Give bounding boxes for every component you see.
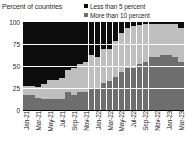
bar-segment-more-than-10 bbox=[166, 55, 172, 110]
bar-mar-22 bbox=[107, 22, 113, 110]
plot-area bbox=[23, 22, 184, 110]
bar-mar-21 bbox=[35, 22, 41, 110]
bar-group bbox=[23, 22, 184, 110]
bar-segment-5-to-10 bbox=[101, 49, 107, 82]
bar-segment-more-than-10 bbox=[160, 55, 166, 110]
bar-segment-less-than-5 bbox=[89, 22, 95, 55]
bar-segment-more-than-10 bbox=[143, 62, 149, 110]
bar-segment-5-to-10 bbox=[154, 24, 160, 57]
bar-segment-less-than-5 bbox=[47, 22, 53, 80]
bar-segment-more-than-10 bbox=[77, 92, 83, 110]
bar-jul-22 bbox=[131, 22, 137, 110]
bar-segment-more-than-10 bbox=[119, 72, 125, 110]
bar-segment-5-to-10 bbox=[95, 57, 101, 89]
bar-segment-less-than-5 bbox=[101, 22, 107, 49]
bar-sep-21 bbox=[71, 22, 77, 110]
bar-apr-22 bbox=[113, 22, 119, 110]
bar-segment-5-to-10 bbox=[53, 80, 59, 99]
bar-dec-22 bbox=[160, 22, 166, 110]
bar-jun-21 bbox=[53, 22, 59, 110]
x-tick-slot: Mar-23 bbox=[178, 111, 184, 144]
bar-segment-more-than-10 bbox=[101, 83, 107, 110]
bar-sep-22 bbox=[143, 22, 149, 110]
bar-oct-22 bbox=[149, 22, 155, 110]
bar-segment-5-to-10 bbox=[113, 41, 119, 76]
bar-segment-more-than-10 bbox=[29, 95, 35, 110]
y-tick-50: 50 bbox=[13, 63, 20, 70]
bar-segment-more-than-10 bbox=[89, 89, 95, 110]
bar-segment-5-to-10 bbox=[149, 24, 155, 57]
bar-segment-more-than-10 bbox=[137, 64, 143, 110]
bar-aug-22 bbox=[137, 22, 143, 110]
bar-segment-more-than-10 bbox=[65, 92, 71, 110]
bar-segment-less-than-5 bbox=[23, 22, 29, 86]
legend-label-less-than-5: Less than 5 percent bbox=[90, 3, 145, 10]
bar-segment-5-to-10 bbox=[143, 24, 149, 62]
bar-segment-more-than-10 bbox=[125, 68, 131, 110]
bar-segment-more-than-10 bbox=[47, 99, 53, 110]
x-tick-labels: Jan-21Mar-21May-21Jul-21Sep-21Nov-21Jan-… bbox=[23, 111, 184, 144]
legend-swatch-less-than-5 bbox=[84, 4, 88, 8]
bar-segment-more-than-10 bbox=[178, 62, 184, 110]
bar-segment-5-to-10 bbox=[29, 86, 35, 95]
bar-segment-less-than-5 bbox=[53, 22, 59, 80]
bar-jul-21 bbox=[59, 22, 65, 110]
y-tick-0: 0 bbox=[16, 107, 20, 114]
bar-aug-21 bbox=[65, 22, 71, 110]
bar-feb-22 bbox=[101, 22, 107, 110]
bar-jan-21 bbox=[23, 22, 29, 110]
bar-segment-5-to-10 bbox=[71, 68, 77, 95]
bar-segment-less-than-5 bbox=[59, 22, 65, 78]
bar-segment-more-than-10 bbox=[172, 57, 178, 110]
bar-segment-5-to-10 bbox=[160, 24, 166, 56]
y-tick-75: 75 bbox=[13, 41, 20, 48]
bar-apr-21 bbox=[41, 22, 47, 110]
bar-segment-more-than-10 bbox=[59, 99, 65, 110]
bar-segment-more-than-10 bbox=[107, 81, 113, 110]
y-tick-100: 100 bbox=[9, 19, 20, 26]
bar-segment-5-to-10 bbox=[65, 70, 71, 93]
bar-segment-more-than-10 bbox=[83, 92, 89, 110]
bar-segment-more-than-10 bbox=[71, 95, 77, 110]
bar-feb-21 bbox=[29, 22, 35, 110]
bar-segment-less-than-5 bbox=[77, 22, 83, 64]
x-axis: Jan-21Mar-21May-21Jul-21Sep-21Nov-21Jan-… bbox=[23, 110, 184, 144]
bar-segment-less-than-5 bbox=[107, 22, 113, 49]
bar-segment-5-to-10 bbox=[77, 64, 83, 91]
legend-item-less-than-5: Less than 5 percent bbox=[84, 2, 150, 10]
bar-segment-5-to-10 bbox=[59, 78, 65, 99]
bar-segment-5-to-10 bbox=[89, 55, 95, 88]
bar-segment-5-to-10 bbox=[125, 28, 131, 68]
bar-nov-21 bbox=[83, 22, 89, 110]
bar-segment-less-than-5 bbox=[95, 22, 101, 57]
bar-segment-more-than-10 bbox=[113, 77, 119, 110]
legend-swatch-more-than-10 bbox=[84, 13, 88, 17]
bar-segment-less-than-5 bbox=[71, 22, 77, 68]
y-axis: 100 75 50 25 0 bbox=[0, 18, 22, 106]
bar-segment-more-than-10 bbox=[35, 98, 41, 110]
bar-segment-5-to-10 bbox=[35, 87, 41, 98]
bar-segment-more-than-10 bbox=[131, 68, 137, 110]
bar-segment-5-to-10 bbox=[41, 84, 47, 99]
chart-container: Percent of countries Less than 5 percent… bbox=[0, 0, 187, 144]
bar-segment-5-to-10 bbox=[137, 25, 143, 65]
bar-segment-5-to-10 bbox=[107, 49, 113, 81]
bar-jan-23 bbox=[166, 22, 172, 110]
bar-jun-22 bbox=[125, 22, 131, 110]
chart-title: Percent of countries bbox=[2, 3, 62, 10]
bar-segment-less-than-5 bbox=[29, 22, 35, 86]
bar-segment-5-to-10 bbox=[23, 86, 29, 95]
y-tick-25: 25 bbox=[13, 85, 20, 92]
bar-segment-more-than-10 bbox=[154, 57, 160, 110]
bar-segment-5-to-10 bbox=[131, 26, 137, 68]
x-tick-label-mar-23: Mar-23 bbox=[178, 111, 185, 130]
bar-segment-more-than-10 bbox=[149, 57, 155, 110]
chart-legend: Less than 5 percent More than 10 percent bbox=[84, 2, 150, 19]
bar-segment-less-than-5 bbox=[65, 22, 71, 70]
bar-segment-less-than-5 bbox=[83, 22, 89, 62]
bar-segment-more-than-10 bbox=[53, 99, 59, 110]
bar-segment-5-to-10 bbox=[172, 24, 178, 57]
bar-segment-less-than-5 bbox=[119, 22, 125, 33]
bar-may-22 bbox=[119, 22, 125, 110]
bar-segment-more-than-10 bbox=[23, 95, 29, 110]
